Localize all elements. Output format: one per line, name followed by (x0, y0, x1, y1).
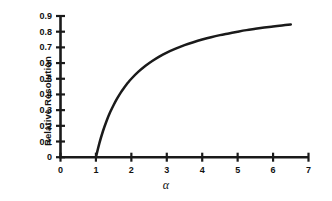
x-tick-label: 1 (93, 166, 98, 175)
x-tick-label: 2 (129, 166, 134, 175)
axes-group (59, 16, 309, 158)
x-tick-label: 4 (200, 166, 205, 175)
x-axis-title: α (0, 178, 332, 193)
y-tick-label: 0.9 (26, 12, 52, 21)
y-axis-title: Relative Resolution (42, 55, 53, 145)
x-tick-label: 0 (58, 166, 63, 175)
x-tick-label: 6 (271, 166, 276, 175)
resolution-curve (96, 24, 291, 157)
y-tick-label: 0.7 (26, 43, 52, 52)
x-tick-label: 3 (164, 166, 169, 175)
x-tick-label: 7 (306, 166, 311, 175)
y-tick-label: 0 (26, 153, 52, 162)
x-tick-label: 5 (235, 166, 240, 175)
y-tick-label: 0.8 (26, 27, 52, 36)
chart-figure: 00.10.20.30.40.50.60.70.80.9 01234567 Re… (0, 0, 332, 201)
